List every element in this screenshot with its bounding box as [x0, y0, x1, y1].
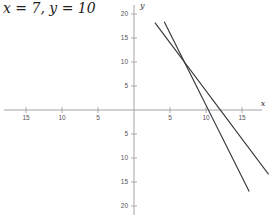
x-tick-label: 5: [96, 114, 100, 121]
x-tick-label: 15: [238, 114, 246, 121]
y-tick-label: 20: [121, 202, 129, 209]
y-tick-label: 5: [124, 130, 128, 137]
y-axis-label: y: [139, 1, 145, 10]
series-line-1: [164, 22, 249, 192]
y-tick-label: 5: [124, 82, 128, 89]
series-line-2: [155, 23, 269, 175]
x-tick-label: 10: [58, 114, 66, 121]
plot-area: 151055101520151055101520xy: [0, 0, 269, 217]
y-tick-label: 10: [121, 58, 129, 65]
x-tick-label: 10: [202, 114, 210, 121]
y-tick-label: 15: [121, 178, 129, 185]
y-tick-label: 10: [121, 154, 129, 161]
x-tick-label: 15: [22, 114, 30, 121]
x-tick-label: 5: [168, 114, 172, 121]
y-tick-label: 15: [121, 34, 129, 41]
x-axis-label: x: [261, 99, 266, 108]
y-tick-label: 20: [121, 10, 129, 17]
